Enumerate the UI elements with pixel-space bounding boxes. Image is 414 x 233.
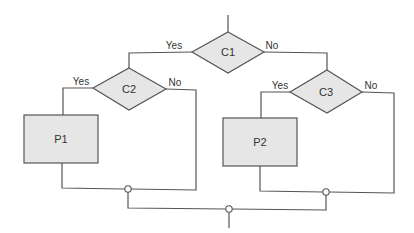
edge-c3-no <box>329 92 394 193</box>
edge-junction-right-out <box>232 195 326 210</box>
edge-label-c2-no: No <box>169 77 182 88</box>
edge-label-c3-yes: Yes <box>272 80 288 91</box>
process-p1-label: P1 <box>54 133 67 145</box>
edge-c2-yes <box>63 88 93 115</box>
decision-c2-label: C2 <box>122 83 136 95</box>
edge-junction-left-out <box>128 192 226 209</box>
edge-label-c1-yes: Yes <box>166 40 182 51</box>
junction-left-icon <box>125 186 131 192</box>
decision-c2: C2 <box>93 68 166 110</box>
edge-c3-yes <box>261 92 290 118</box>
decision-c1-label: C1 <box>221 46 235 58</box>
edge-label-c2-yes: Yes <box>73 76 89 87</box>
edge-c1-yes <box>129 52 192 68</box>
junction-right-icon <box>323 189 329 195</box>
process-p2-label: P2 <box>253 136 266 148</box>
edge-c1-no <box>264 52 327 70</box>
flowchart-canvas: C1 Yes No C2 Yes No P1 C3 Yes No P2 <box>0 0 414 233</box>
edge-p2-out <box>260 166 323 192</box>
junction-final-icon <box>226 206 232 212</box>
process-p2: P2 <box>223 118 297 166</box>
decision-c3: C3 <box>290 70 362 113</box>
decision-c1: C1 <box>192 32 264 73</box>
edge-p1-out <box>62 163 125 189</box>
edge-label-c3-no: No <box>365 80 378 91</box>
edge-c2-no <box>131 89 196 190</box>
decision-c3-label: C3 <box>319 86 333 98</box>
process-p1: P1 <box>24 115 98 163</box>
edge-label-c1-no: No <box>266 40 279 51</box>
